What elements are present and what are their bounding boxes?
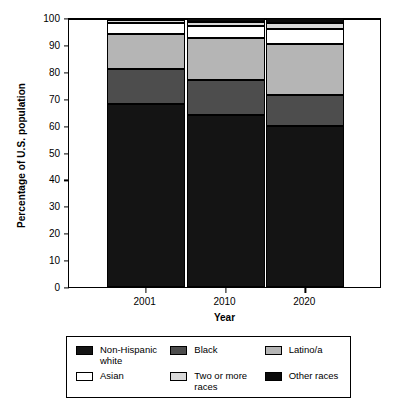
bar-segment-non-hispanic-white[interactable]	[107, 104, 185, 287]
bar-segment-other-races[interactable]	[266, 18, 344, 23]
legend-row: Asian Two or more races Other races	[67, 370, 350, 396]
legend-label: Asian	[100, 370, 124, 381]
bar-segment-latino[interactable]	[187, 38, 265, 80]
plot-area: 0102030405060708090100	[68, 19, 381, 288]
y-tick-label: 60	[9, 122, 69, 132]
bar-2020[interactable]	[266, 19, 344, 287]
bar-segment-black[interactable]	[266, 95, 344, 126]
bar-segment-non-hispanic-white[interactable]	[187, 115, 265, 287]
legend-label: Black	[194, 344, 217, 355]
y-tick-label: 90	[9, 41, 69, 51]
y-tick-label: 30	[9, 202, 69, 212]
legend-label: Non-Hispanic white	[100, 344, 157, 366]
legend-swatch-black	[170, 346, 187, 355]
bar-segment-non-hispanic-white[interactable]	[266, 126, 344, 287]
y-tick-label: 10	[9, 256, 69, 266]
bar-segment-latino[interactable]	[107, 34, 185, 69]
bar-segment-asian[interactable]	[107, 23, 185, 34]
legend-label: Latino/a	[289, 344, 323, 355]
bar-segment-two-or-more-races[interactable]	[266, 23, 344, 28]
x-tick-label-2020: 2020	[259, 296, 349, 307]
legend-swatch-latino	[265, 346, 282, 355]
legend-item[interactable]: Other races	[256, 370, 350, 396]
legend-item[interactable]: Black	[161, 344, 255, 370]
chart-figure: Percentage of U.S. population 0102030405…	[0, 0, 393, 412]
bar-segment-black[interactable]	[107, 69, 185, 104]
y-tick-label: 50	[9, 149, 69, 159]
bar-segment-two-or-more-races[interactable]	[187, 22, 265, 26]
y-tick-label: 40	[9, 175, 69, 185]
bar-segment-asian[interactable]	[266, 29, 344, 44]
legend-label: Other races	[289, 370, 339, 381]
x-tick-mark	[305, 287, 306, 293]
bar-segment-other-races[interactable]	[187, 18, 265, 22]
x-tick-mark	[145, 287, 146, 293]
y-tick-label: 0	[9, 283, 69, 293]
y-tick-label: 100	[9, 14, 69, 24]
legend-label: Two or more races	[194, 370, 247, 392]
legend-swatch-asian	[76, 372, 93, 381]
x-tick-mark	[225, 287, 226, 293]
legend-item[interactable]: Two or more races	[161, 370, 255, 396]
legend-item[interactable]: Asian	[67, 370, 161, 396]
x-tick-label-2001: 2001	[100, 296, 190, 307]
bar-segment-asian[interactable]	[187, 26, 265, 38]
bar-segment-black[interactable]	[187, 80, 265, 115]
y-tick-label: 20	[9, 229, 69, 239]
legend-item[interactable]: Non-Hispanic white	[67, 344, 161, 370]
chart-legend: Non-Hispanic white Black Latino/a Asian …	[66, 336, 351, 398]
y-tick-label: 70	[9, 95, 69, 105]
bar-segment-other-races[interactable]	[107, 18, 185, 20]
bar-segment-latino[interactable]	[266, 44, 344, 95]
legend-swatch-other-races	[265, 372, 282, 381]
legend-row: Non-Hispanic white Black Latino/a	[67, 344, 350, 370]
y-tick-label: 80	[9, 68, 69, 78]
bar-2001[interactable]	[107, 19, 185, 287]
x-tick-label-2010: 2010	[180, 296, 270, 307]
legend-swatch-two-or-more-races	[170, 372, 187, 381]
x-axis-title: Year	[68, 312, 381, 323]
legend-swatch-non-hispanic-white	[76, 346, 93, 355]
bar-2010[interactable]	[187, 19, 265, 287]
legend-item[interactable]: Latino/a	[256, 344, 350, 370]
bar-segment-two-or-more-races[interactable]	[107, 20, 185, 23]
